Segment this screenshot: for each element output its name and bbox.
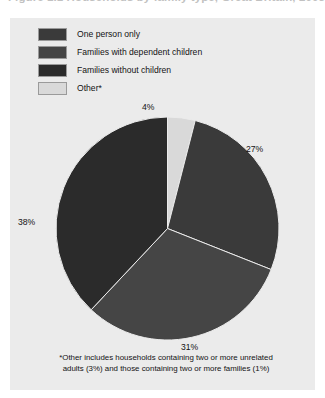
- page-title: Figure 1.1 Households by family type, Gr…: [8, 0, 325, 3]
- pie-label-families-without-children: 38%: [18, 217, 35, 227]
- chart-footnote: *Other includes households containing tw…: [32, 352, 300, 375]
- pie-slice-1[interactable]: [168, 121, 280, 270]
- footnote-line-2: adults (3%) and those containing two or …: [32, 363, 300, 374]
- figure-title-strip: Figure 1.1 Households by family type, Gr…: [0, 0, 325, 16]
- pie-slice-group: [56, 117, 279, 340]
- pie-chart: [55, 116, 280, 341]
- legend-label-one-person-only: One person only: [77, 30, 140, 39]
- footnote-line-1: *Other includes households containing tw…: [32, 352, 300, 363]
- legend-swatch-families-without-children: [38, 64, 67, 77]
- legend-item-families-without-children[interactable]: Families without children: [38, 61, 288, 79]
- legend-swatch-families-with-dependent-children: [38, 46, 67, 59]
- legend-label-other: Other*: [77, 84, 102, 93]
- legend-label-families-without-children: Families without children: [77, 66, 171, 75]
- legend-item-families-with-dependent-children[interactable]: Families with dependent children: [38, 43, 288, 61]
- legend-item-one-person-only[interactable]: One person only: [38, 25, 288, 43]
- legend-label-families-with-dependent-children: Families with dependent children: [77, 48, 202, 57]
- pie-slice-2[interactable]: [91, 229, 271, 341]
- chart-legend: One person only Families with dependent …: [38, 25, 288, 97]
- pie-slice-0[interactable]: [168, 117, 196, 229]
- legend-swatch-one-person-only: [38, 28, 67, 41]
- pie-label-other: 4%: [142, 102, 154, 112]
- pie-label-one-person-only: 27%: [246, 144, 263, 154]
- legend-swatch-other: [38, 82, 67, 95]
- legend-item-other[interactable]: Other*: [38, 79, 288, 97]
- pie-label-families-with-dependent-children: 31%: [181, 342, 198, 352]
- figure-panel: One person only Families with dependent …: [10, 18, 315, 390]
- pie-slice-3[interactable]: [56, 117, 168, 310]
